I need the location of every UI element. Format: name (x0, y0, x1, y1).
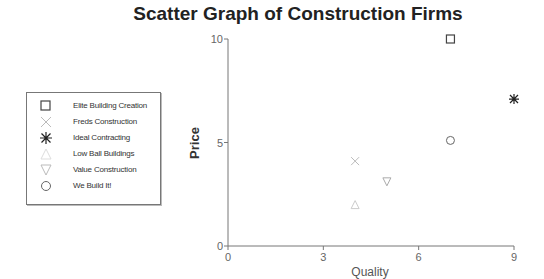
legend-item: Elite Building Creation (27, 99, 160, 113)
y-axis-title: Price (187, 127, 202, 159)
triangle-down-marker-icon (39, 163, 53, 177)
x-marker-icon (39, 115, 53, 129)
x-tick-label: 6 (416, 251, 422, 263)
asterisk-marker-icon (39, 131, 53, 145)
x-axis-title: Quality (351, 265, 388, 279)
data-point-x (351, 157, 359, 165)
triangle-up-marker-icon (39, 147, 53, 161)
x-tick-label: 0 (225, 251, 231, 263)
data-point-square (446, 35, 454, 43)
legend-item: We Build It! (27, 179, 160, 193)
legend-label: Low Ball Buildings (73, 149, 134, 158)
legend: Elite Building Creation Freds Constructi… (26, 92, 161, 205)
data-point-triangle-down (383, 178, 391, 186)
legend-item: Freds Construction (27, 115, 160, 129)
data-point-circle (446, 136, 454, 144)
legend-label: Value Construction (73, 165, 136, 174)
legend-label: We Build It! (73, 181, 111, 190)
data-point-asterisk (509, 94, 519, 104)
legend-label: Freds Construction (73, 117, 137, 126)
y-tick-label: 5 (217, 137, 223, 149)
legend-label: Elite Building Creation (73, 101, 147, 110)
x-tick-label: 3 (320, 251, 326, 263)
data-points (351, 35, 519, 209)
data-point-triangle-up (351, 201, 359, 209)
circle-marker-icon (39, 179, 53, 193)
legend-label: Ideal Contracting (73, 133, 130, 142)
axes: 05100369 (211, 33, 517, 263)
y-tick-label: 10 (211, 33, 223, 45)
x-tick-label: 9 (511, 251, 517, 263)
legend-item: Ideal Contracting (27, 131, 160, 145)
y-tick-label: 0 (217, 240, 223, 252)
square-marker-icon (39, 99, 53, 113)
legend-item: Value Construction (27, 163, 160, 177)
legend-item: Low Ball Buildings (27, 147, 160, 161)
